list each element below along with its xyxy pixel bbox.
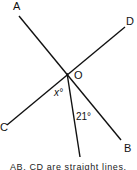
line-cd (7, 27, 125, 125)
label-b: B (124, 142, 131, 154)
label-c: C (0, 121, 8, 133)
line-ab (19, 16, 121, 140)
geometry-diagram: A D O C B x° 21° AB, CD are straight lin… (0, 0, 137, 170)
caption: AB, CD are straight lines. (10, 162, 127, 170)
label-d: D (126, 15, 134, 27)
label-a: A (13, 0, 21, 12)
angle-21-label: 21° (76, 111, 91, 122)
label-o: O (74, 69, 83, 81)
angle-x-label: x° (53, 87, 63, 98)
